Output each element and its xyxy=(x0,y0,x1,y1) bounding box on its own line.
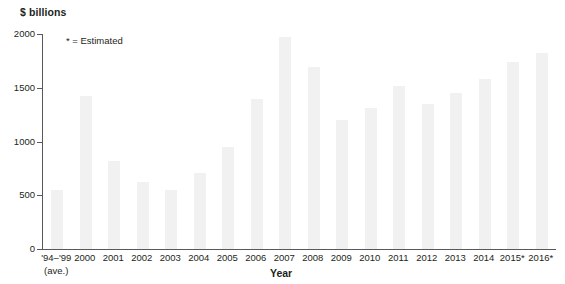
y-tick-label-group: 0500100015002000 xyxy=(0,34,35,250)
bar xyxy=(450,93,462,249)
x-axis-tick-label-text: 2003 xyxy=(160,252,181,263)
x-axis-tick-label-text: 2012 xyxy=(416,252,437,263)
bar xyxy=(422,104,434,249)
bar xyxy=(194,173,206,249)
x-axis-tick-label-text: 2005 xyxy=(217,252,238,263)
y-axis-tick-label: 500 xyxy=(19,189,35,200)
y-axis-tick-label: 0 xyxy=(30,243,35,254)
bar xyxy=(507,62,519,249)
x-tick-label-group: '94–'99(ave.)200020012002200320042005200… xyxy=(42,252,556,282)
x-axis-tick-label-text: 2011 xyxy=(388,252,408,263)
bar xyxy=(222,147,234,249)
x-axis-tick-sublabel: (ave.) xyxy=(36,265,76,276)
x-axis-tick-label-text: 2010 xyxy=(359,252,380,263)
y-axis-tick-label: 1000 xyxy=(14,136,35,147)
y-axis-tick xyxy=(37,34,43,35)
bar xyxy=(279,37,291,249)
plot-area xyxy=(42,34,556,250)
x-axis-tick-label-text: 2006 xyxy=(245,252,266,263)
x-axis-tick-label-text: 2002 xyxy=(131,252,152,263)
y-axis-tick-label: 1500 xyxy=(14,82,35,93)
y-axis-tick xyxy=(37,88,43,89)
bar xyxy=(80,96,92,249)
y-axis-title: $ billions xyxy=(20,6,67,18)
bar xyxy=(536,53,548,249)
bar-group xyxy=(43,34,556,249)
y-axis-tick-label: 2000 xyxy=(14,28,35,39)
bar xyxy=(336,120,348,249)
y-axis-tick xyxy=(37,142,43,143)
bar xyxy=(393,86,405,249)
bar xyxy=(137,182,149,249)
bar xyxy=(308,67,320,249)
bar xyxy=(365,108,377,249)
x-axis-tick-label-text: 2016* xyxy=(528,252,553,263)
bar xyxy=(479,79,491,249)
x-axis-tick-label-text: 2014 xyxy=(473,252,494,263)
x-axis-tick-label-text: 2008 xyxy=(302,252,323,263)
bar xyxy=(251,99,263,250)
x-axis-tick-label-text: 2001 xyxy=(103,252,124,263)
bar-chart: $ billions * = Estimated 050010001500200… xyxy=(0,0,565,284)
x-axis-tick-label-text: 2007 xyxy=(274,252,295,263)
x-axis-tick-label-text: 2009 xyxy=(331,252,352,263)
x-axis-line xyxy=(42,249,556,250)
x-axis-title: Year xyxy=(270,267,292,279)
y-axis-tick xyxy=(37,249,43,250)
bar xyxy=(108,161,120,249)
bar xyxy=(165,190,177,249)
x-axis-tick-label-text: 2013 xyxy=(445,252,466,263)
bar xyxy=(51,190,63,249)
x-axis-tick-label-text: 2004 xyxy=(188,252,209,263)
x-axis-tick-label-text: 2000 xyxy=(74,252,95,263)
y-axis-tick xyxy=(37,195,43,196)
x-axis-tick-label: 2016* xyxy=(521,252,561,263)
